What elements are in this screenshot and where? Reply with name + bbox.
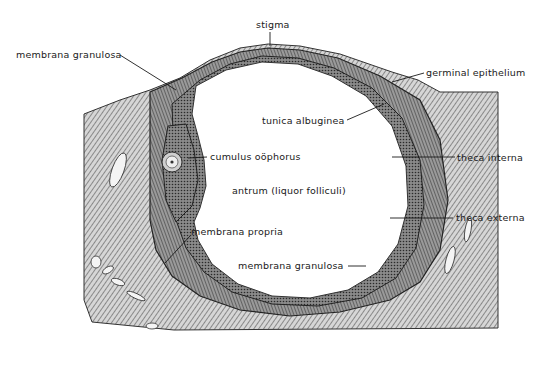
follicle-diagram: stigma membrana granulosa germinal epith… bbox=[0, 0, 543, 368]
label-theca-externa: theca externa bbox=[456, 212, 525, 223]
label-antrum: antrum (liquor folliculi) bbox=[232, 185, 346, 196]
leader-membrana-granulosa-top bbox=[120, 55, 176, 90]
oocyte-nucleus bbox=[170, 160, 173, 163]
label-stigma: stigma bbox=[256, 19, 290, 30]
label-membrana-granulosa-bottom: membrana granulosa bbox=[238, 260, 344, 271]
label-tunica-albuginea: tunica albuginea bbox=[262, 115, 345, 126]
label-germinal-epithelium: germinal epithelium bbox=[426, 67, 525, 78]
label-membrana-granulosa-top: membrana granulosa bbox=[16, 49, 122, 60]
label-theca-interna: theca interna bbox=[457, 152, 523, 163]
label-cumulus-oophorus: cumulus oöphorus bbox=[210, 151, 301, 162]
label-membrana-propria: membrana propria bbox=[191, 226, 283, 237]
